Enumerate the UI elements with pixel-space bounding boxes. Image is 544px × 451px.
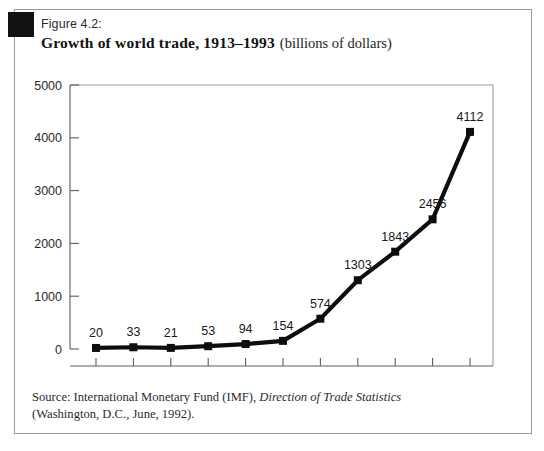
data-point-label: 21: [164, 326, 178, 340]
figure-header: Figure 4.2: Growth of world trade, 1913–…: [41, 17, 511, 52]
chart-canvas: 010002000300040005000 191319281933194819…: [22, 72, 512, 372]
data-point-label: 94: [239, 322, 253, 336]
y-tick-label: 0: [55, 343, 62, 357]
data-point-marker: [129, 343, 137, 351]
figure-root: Figure 4.2: Growth of world trade, 1913–…: [0, 0, 544, 451]
data-point-label: 20: [89, 326, 103, 340]
data-point-label: 1843: [381, 230, 409, 244]
data-point-marker: [167, 344, 175, 352]
data-point-label: 4112: [457, 110, 484, 124]
data-point-marker: [204, 342, 212, 350]
figure-title-line: Growth of world trade, 1913–1993(billion…: [41, 34, 511, 52]
data-point-marker: [391, 248, 399, 256]
data-point-marker: [316, 315, 324, 323]
data-point-label: 574: [310, 297, 331, 311]
page-title: Growth of world trade, 1913–1993: [41, 34, 275, 51]
data-point-label: 154: [273, 319, 294, 333]
x-axis-ticks: [96, 358, 470, 366]
data-point-marker: [279, 337, 287, 345]
data-point-marker: [242, 340, 250, 348]
source-line-2: (Washington, D.C., June, 1992).: [32, 407, 194, 421]
black-square-mark: [8, 12, 34, 37]
series-line: [96, 132, 470, 348]
source-publication-title: Direction of Trade Statistics: [259, 390, 401, 404]
y-tick-label: 4000: [34, 131, 62, 145]
y-axis-ticks: [70, 85, 79, 349]
data-point-marker: [92, 344, 100, 352]
line-chart: 010002000300040005000 191319281933194819…: [22, 72, 512, 372]
data-point-label: 1303: [344, 258, 372, 272]
y-tick-label: 5000: [34, 79, 62, 93]
source-note: Source: International Monetary Fund (IMF…: [32, 389, 482, 423]
series-line-group: [96, 132, 470, 348]
data-point-label: 2456: [419, 197, 447, 211]
source-line-1-prefix: Source: International Monetary Fund (IMF…: [32, 390, 259, 404]
data-point-label: 33: [126, 325, 140, 339]
data-point-marker: [466, 128, 474, 136]
y-tick-label: 1000: [34, 290, 62, 304]
y-tick-label: 2000: [34, 237, 62, 251]
data-point-marker: [429, 215, 437, 223]
data-point-label: 53: [201, 324, 215, 338]
data-point-marker: [354, 276, 362, 284]
y-tick-label: 3000: [34, 184, 62, 198]
figure-subtitle-units: (billions of dollars): [280, 35, 392, 51]
y-axis-tick-labels: 010002000300040005000: [34, 79, 62, 357]
figure-number: Figure 4.2:: [41, 17, 511, 32]
